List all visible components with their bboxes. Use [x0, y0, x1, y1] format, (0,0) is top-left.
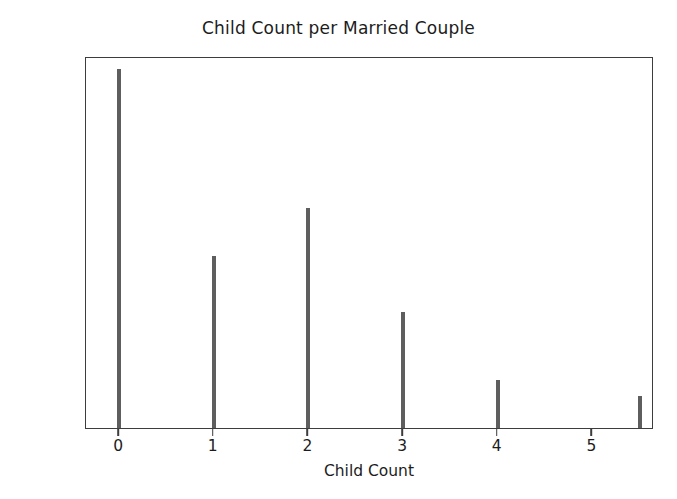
x-tick-mark [212, 429, 214, 436]
x-tick-label: 4 [492, 437, 502, 455]
x-tick-mark [591, 429, 593, 436]
x-tick-mark [307, 429, 309, 436]
x-axis: 012345 [0, 0, 677, 499]
x-tick-label: 2 [303, 437, 313, 455]
x-axis-label: Child Count [85, 462, 653, 480]
x-tick-label: 5 [587, 437, 597, 455]
x-tick-mark [496, 429, 498, 436]
x-tick-label: 0 [113, 437, 123, 455]
x-tick-label: 3 [397, 437, 407, 455]
chart-figure: Child Count per Married Couple 050010001… [0, 0, 677, 499]
x-tick-mark [117, 429, 119, 436]
x-tick-label: 1 [208, 437, 218, 455]
x-tick-mark [401, 429, 403, 436]
